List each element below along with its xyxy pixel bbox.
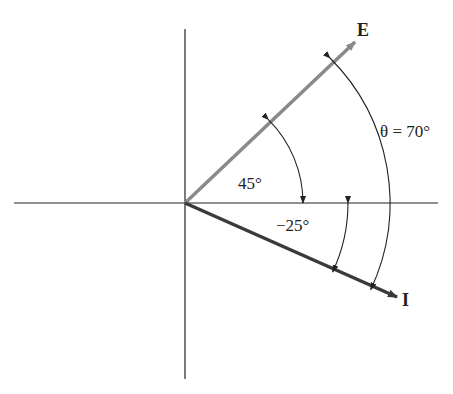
arc-minus-25 <box>333 203 348 272</box>
phasor-diagram: E I 45° −25° θ = 70° <box>0 0 453 394</box>
label-minus-25-deg: −25° <box>276 216 309 235</box>
label-i: I <box>402 290 409 310</box>
label-theta-70: θ = 70° <box>380 122 430 141</box>
label-45-deg: 45° <box>238 174 262 193</box>
phasor-e <box>185 42 355 203</box>
arc-45 <box>268 120 303 203</box>
label-e: E <box>357 20 369 40</box>
